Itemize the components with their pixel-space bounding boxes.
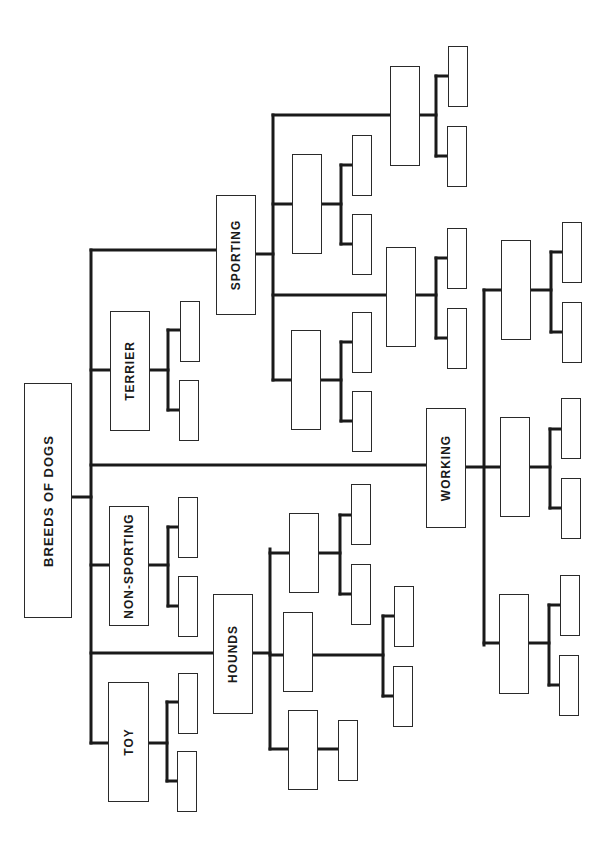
empty-box xyxy=(447,126,467,187)
empty-box xyxy=(562,222,582,283)
box-label: BREEDS OF DOGS xyxy=(41,435,56,567)
empty-box xyxy=(393,666,413,727)
box-sporting: SPORTING xyxy=(216,195,256,315)
box-root: BREEDS OF DOGS xyxy=(24,383,72,618)
box-hounds: HOUNDS xyxy=(213,594,253,714)
empty-box xyxy=(180,301,200,362)
empty-box xyxy=(291,330,321,430)
empty-box xyxy=(448,46,468,107)
empty-box xyxy=(500,417,530,517)
box-toy: TOY xyxy=(108,682,149,802)
empty-box xyxy=(179,380,199,441)
empty-box xyxy=(447,228,467,289)
empty-box xyxy=(352,391,372,452)
empty-box xyxy=(386,247,416,347)
empty-box xyxy=(559,655,579,716)
empty-box xyxy=(390,66,420,166)
empty-box xyxy=(561,398,581,459)
empty-box xyxy=(177,751,197,812)
empty-box xyxy=(394,586,414,647)
empty-box xyxy=(289,513,319,593)
empty-box xyxy=(351,564,371,625)
box-working: WORKING xyxy=(426,408,466,528)
box-terrier: TERRIER xyxy=(110,311,150,431)
box-label: HOUNDS xyxy=(226,625,240,683)
empty-box xyxy=(501,240,531,340)
empty-box xyxy=(352,214,372,275)
empty-box xyxy=(352,312,372,373)
empty-box xyxy=(292,154,322,254)
box-nonsporting: NON-SPORTING xyxy=(109,506,149,626)
box-label: SPORTING xyxy=(229,220,243,291)
empty-box xyxy=(562,302,582,363)
empty-box xyxy=(178,673,198,734)
empty-box xyxy=(499,594,529,694)
empty-box xyxy=(283,612,313,692)
empty-box xyxy=(288,710,318,790)
empty-box xyxy=(352,135,372,196)
empty-box xyxy=(561,478,581,539)
empty-box xyxy=(447,308,467,369)
box-label: NON-SPORTING xyxy=(122,513,136,618)
empty-box xyxy=(351,484,371,545)
empty-box xyxy=(560,575,580,636)
box-label: WORKING xyxy=(439,435,453,501)
empty-box xyxy=(338,720,358,781)
empty-box xyxy=(178,497,198,558)
empty-box xyxy=(178,576,198,637)
box-label: TERRIER xyxy=(123,341,137,401)
dog-breeds-tree-diagram: BREEDS OF DOGSTOYNON-SPORTINGTERRIERHOUN… xyxy=(0,0,612,847)
box-label: TOY xyxy=(122,728,136,755)
